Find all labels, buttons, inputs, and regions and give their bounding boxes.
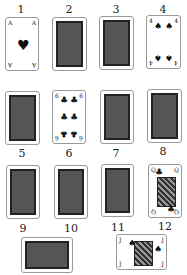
rank-corner: A bbox=[8, 20, 12, 26]
card-number-5: 5 bbox=[7, 147, 37, 160]
card-12-queen-of-clubs[interactable]: Q Q ♣ ♣ Q Q bbox=[148, 164, 182, 218]
heart-icon: ♥ bbox=[17, 38, 30, 52]
card-3-face-down[interactable] bbox=[99, 16, 134, 70]
rank-corner: 6 bbox=[55, 135, 59, 141]
card-1-ace-of-hearts[interactable]: A A ♥ A A bbox=[5, 17, 39, 71]
card-back-pattern bbox=[56, 21, 83, 67]
card-back-pattern bbox=[9, 95, 36, 141]
card-number-11: 11 bbox=[103, 221, 133, 234]
card-back-pattern bbox=[103, 20, 130, 66]
card-number-9: 9 bbox=[8, 222, 38, 235]
club-icon: ♣ bbox=[60, 96, 68, 105]
card-number-2: 2 bbox=[54, 3, 84, 16]
spade-icon: ♠ bbox=[154, 53, 162, 62]
card-5-face-down[interactable] bbox=[5, 91, 40, 145]
card-back-pattern bbox=[151, 93, 178, 139]
rank-corner: A bbox=[32, 20, 36, 26]
card-number-7: 7 bbox=[101, 147, 131, 160]
card-back-pattern bbox=[58, 169, 84, 215]
card-back-pattern bbox=[25, 241, 69, 269]
rank-corner: Q bbox=[174, 167, 179, 173]
card-2-face-down[interactable] bbox=[52, 17, 87, 71]
stock-pile-face-down[interactable] bbox=[21, 237, 73, 273]
queen-portrait bbox=[157, 177, 176, 207]
rank-corner: 4 bbox=[149, 18, 153, 24]
card-6-six-of-clubs[interactable]: 6 6 ♣ ♣ ♣ ♣ ♣ ♣ 6 6 bbox=[52, 90, 86, 144]
rank-corner: A bbox=[32, 62, 36, 68]
card-number-6: 6 bbox=[54, 147, 84, 160]
spade-icon: ♠ bbox=[154, 22, 162, 31]
card-back-pattern bbox=[10, 169, 36, 215]
rank-corner: J bbox=[162, 261, 164, 267]
rank-corner: 6 bbox=[79, 93, 83, 99]
card-back-pattern bbox=[104, 94, 130, 140]
rank-corner: 4 bbox=[174, 60, 178, 66]
card-number-10: 10 bbox=[56, 222, 86, 235]
club-icon: ♣ bbox=[70, 96, 78, 105]
rank-corner: 4 bbox=[174, 18, 178, 24]
spade-icon: ♠ bbox=[165, 22, 173, 31]
spade-icon: ♠ bbox=[154, 245, 162, 254]
card-number-3: 3 bbox=[101, 3, 131, 16]
card-10-face-down[interactable] bbox=[54, 165, 88, 219]
club-icon: ♣ bbox=[70, 129, 78, 138]
club-icon: ♣ bbox=[70, 113, 78, 122]
card-number-12: 12 bbox=[150, 220, 180, 233]
card-9-face-down[interactable] bbox=[6, 165, 40, 219]
club-icon: ♣ bbox=[155, 168, 163, 177]
jack-of-spades-horizontal[interactable]: J ♠ ♠ J J J bbox=[116, 234, 167, 270]
club-icon: ♣ bbox=[60, 113, 68, 122]
rank-corner: Q bbox=[151, 209, 156, 215]
rank-corner: 6 bbox=[55, 93, 59, 99]
rank-corner: 6 bbox=[79, 135, 83, 141]
card-number-1: 1 bbox=[6, 3, 36, 16]
rank-corner: J bbox=[162, 237, 164, 243]
jack-portrait bbox=[134, 241, 153, 266]
spade-icon: ♠ bbox=[165, 53, 173, 62]
rank-corner: Q bbox=[174, 209, 179, 215]
club-icon: ♣ bbox=[60, 129, 68, 138]
rank-corner: A bbox=[8, 62, 12, 68]
rank-corner: J bbox=[119, 261, 121, 267]
card-back-pattern bbox=[105, 168, 130, 213]
card-number-8: 8 bbox=[148, 145, 178, 158]
rank-corner: 4 bbox=[149, 60, 153, 66]
card-7-face-down[interactable] bbox=[100, 90, 134, 144]
card-8-face-down[interactable] bbox=[147, 89, 182, 143]
rank-corner: J bbox=[119, 237, 121, 243]
card-4-four-of-spades[interactable]: 4 4 ♠ ♠ ♠ ♠ 4 4 bbox=[146, 15, 181, 69]
card-11-face-down[interactable] bbox=[101, 164, 134, 217]
